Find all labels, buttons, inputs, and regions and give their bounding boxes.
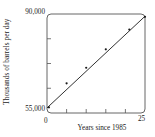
data-point	[66, 82, 68, 84]
data-point	[144, 16, 146, 18]
scatter-plot-figure: Thousands of barrels per day 90,000 55,0…	[0, 0, 155, 137]
data-point	[48, 106, 50, 108]
plot-frame	[47, 14, 145, 113]
x-axis-tick-label-left: 0	[44, 118, 48, 125]
data-point	[85, 67, 87, 69]
x-axis-title: Years since 1985	[57, 125, 147, 132]
data-point	[128, 28, 130, 30]
plot-area	[0, 0, 155, 137]
x-axis-tick-label-right: 25	[138, 116, 145, 123]
data-point	[105, 48, 107, 50]
